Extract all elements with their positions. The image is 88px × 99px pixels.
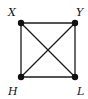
node-x — [18, 20, 24, 26]
node-y — [72, 20, 78, 26]
node-label-h: H — [7, 85, 18, 98]
node-label-l: L — [76, 85, 84, 98]
node-h — [18, 74, 24, 80]
edges — [21, 23, 75, 77]
complete-graph-k4: XYHL — [0, 0, 88, 99]
node-label-y: Y — [76, 6, 85, 19]
node-label-x: X — [7, 6, 17, 19]
node-l — [72, 74, 78, 80]
